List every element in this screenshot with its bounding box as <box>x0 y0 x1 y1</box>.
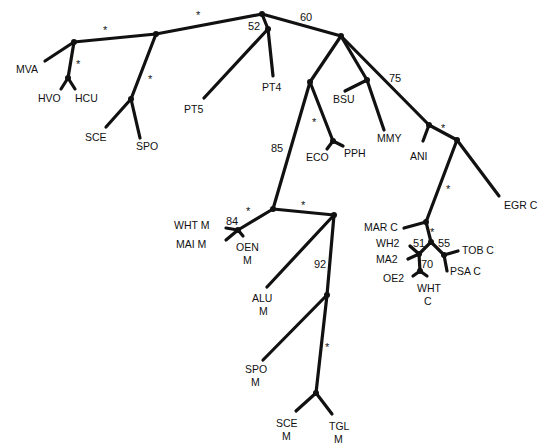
support-value: * <box>103 24 108 36</box>
taxon-mar-c: MAR C <box>364 221 398 233</box>
taxon-oen-m: OEN <box>236 241 259 253</box>
taxon-tob-c: TOB C <box>462 244 494 256</box>
taxon-alu-m: ALU <box>252 292 272 304</box>
taxon-sce: SCE <box>85 131 107 143</box>
taxon-egr-c: EGR C <box>504 199 538 211</box>
support-value: * <box>325 341 330 353</box>
support-value: 84 <box>226 215 238 227</box>
taxon-psa-c: PSA C <box>450 265 481 277</box>
taxon-oen-m-suffix: M <box>243 254 252 266</box>
taxon-alu-m-suffix: M <box>259 305 268 317</box>
taxon-mai-m: MAI M <box>176 238 206 250</box>
taxon-labels: MVA HVO HCU SCE SPO PT5 PT4 BSU MMY ECO … <box>16 63 538 445</box>
taxon-pph: PPH <box>344 147 366 159</box>
taxon-eco: ECO <box>306 151 329 163</box>
taxon-wht-m: WHT M <box>174 219 209 231</box>
taxon-sce-m: SCE <box>276 417 298 429</box>
tree-branches <box>45 14 499 414</box>
taxon-spo: SPO <box>136 140 158 152</box>
support-value: 70 <box>421 258 433 270</box>
taxon-oe2: OE2 <box>383 272 404 284</box>
support-value: 92 <box>314 258 326 270</box>
support-value: * <box>430 226 435 238</box>
support-value: * <box>76 58 81 70</box>
support-value: * <box>446 183 451 195</box>
taxon-mmy: MMY <box>377 132 402 144</box>
taxon-wh2: WH2 <box>376 237 399 249</box>
support-value: * <box>441 122 446 134</box>
support-value: 75 <box>389 72 401 84</box>
support-value: 51 <box>413 237 425 249</box>
support-value: 85 <box>271 142 283 154</box>
taxon-bsu: BSU <box>333 93 355 105</box>
tree-nodes <box>65 11 460 396</box>
support-value: 52 <box>248 20 260 32</box>
phylogenetic-tree: MVA HVO HCU SCE SPO PT5 PT4 BSU MMY ECO … <box>0 0 545 448</box>
support-value: 55 <box>438 237 450 249</box>
taxon-tgl-m: TGL <box>329 420 350 432</box>
support-value: * <box>312 116 317 128</box>
taxon-wht-c: WHT <box>417 282 441 294</box>
taxon-spo-m-suffix: M <box>251 376 260 388</box>
taxon-hvo: HVO <box>38 92 61 104</box>
taxon-tgl-m-suffix: M <box>334 433 343 445</box>
support-value: 60 <box>300 11 312 23</box>
support-value: * <box>148 73 153 85</box>
taxon-pt4: PT4 <box>262 81 281 93</box>
taxon-hcu: HCU <box>75 92 98 104</box>
taxon-sce-m-suffix: M <box>282 430 291 442</box>
support-value: * <box>301 199 306 211</box>
support-value: * <box>246 205 251 217</box>
taxon-ma2: MA2 <box>376 253 398 265</box>
support-value: * <box>196 9 201 21</box>
taxon-mva: MVA <box>16 63 38 75</box>
taxon-ani: ANI <box>410 150 428 162</box>
taxon-spo-m: SPO <box>245 363 267 375</box>
taxon-wht-c-suffix: C <box>424 295 432 307</box>
taxon-pt5: PT5 <box>184 103 203 115</box>
